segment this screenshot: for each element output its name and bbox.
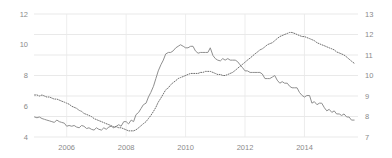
horizontal-gridlines — [34, 14, 358, 137]
right-axis-tick-label: 13 — [365, 10, 373, 19]
x-axis-tick-label: 2014 — [296, 143, 313, 152]
series-layer — [35, 32, 355, 130]
right-axis-tick-label: 10 — [365, 71, 373, 80]
x-axis-labels: 20062008201020122014 — [58, 143, 312, 152]
right-axis-tick-label: 9 — [365, 92, 369, 101]
right-axis-tick-label: 7 — [365, 133, 369, 142]
left-axis-tick-label: 8 — [24, 71, 28, 80]
dual-axis-line-chart: 4681012 78910111213 20062008201020122014 — [0, 0, 392, 158]
right-axis-tick-label: 12 — [365, 30, 373, 39]
left-axis-labels: 4681012 — [20, 10, 28, 142]
right-axis-tick-label: 8 — [365, 112, 369, 121]
right-axis-tick-label: 11 — [365, 51, 373, 60]
left-axis-tick-label: 6 — [24, 102, 28, 111]
x-axis-tick-label: 2008 — [118, 143, 135, 152]
left-axis-tick-label: 12 — [20, 10, 28, 19]
x-axis-tick-label: 2010 — [177, 143, 194, 152]
chart-container: 4681012 78910111213 20062008201020122014 — [0, 0, 392, 158]
left-axis-tick-label: 10 — [20, 40, 28, 49]
x-axis-tick-label: 2006 — [58, 143, 75, 152]
x-axis-tick-label: 2012 — [237, 143, 254, 152]
series-line-solid — [35, 45, 355, 130]
right-axis-labels: 78910111213 — [365, 10, 373, 142]
series-line-dotted — [35, 32, 355, 130]
left-axis-tick-label: 4 — [24, 133, 28, 142]
